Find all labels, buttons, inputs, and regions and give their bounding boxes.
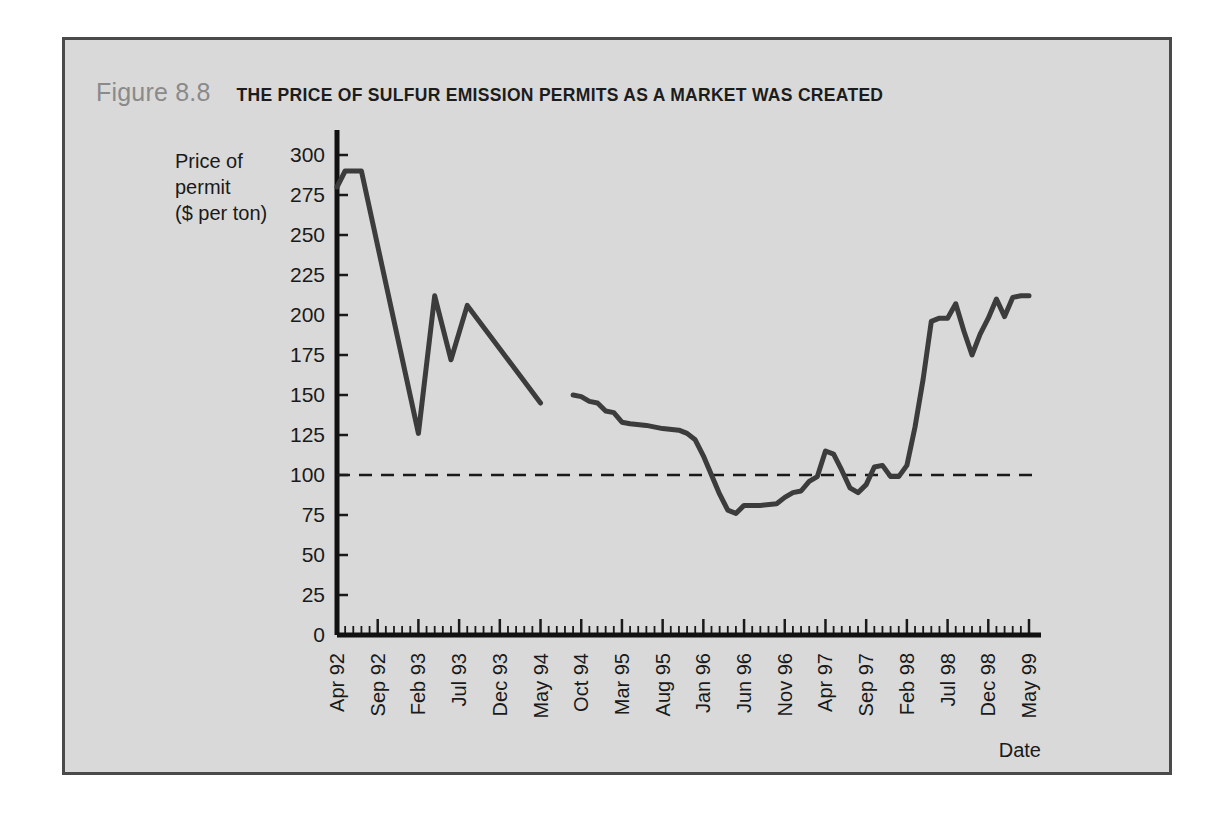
x-tick-label: Mar 95 (611, 653, 633, 715)
x-tick-label: Dec 98 (977, 653, 999, 716)
y-tick-label: 275 (290, 183, 325, 206)
y-tick-label: 225 (290, 263, 325, 286)
x-tick-label: Sep 92 (367, 653, 389, 716)
x-tick-label: May 94 (530, 653, 552, 719)
x-tick-label: May 99 (1018, 653, 1040, 719)
y-tick-label: 250 (290, 223, 325, 246)
y-tick-label: 175 (290, 343, 325, 366)
price-series-lines (337, 171, 1029, 513)
x-axis-title: Date (999, 739, 1041, 761)
figure-panel: Figure 8.8 THE PRICE OF SULFUR EMISSION … (62, 37, 1172, 775)
x-tick-label: Sep 97 (855, 653, 877, 716)
y-tick-label: 200 (290, 303, 325, 326)
x-tick-label: Jul 93 (448, 653, 470, 706)
y-axis-label-line: permit (175, 176, 231, 198)
x-tick-label: Jun 96 (733, 653, 755, 713)
x-tick-label: Apr 97 (814, 653, 836, 712)
x-tick-label: Dec 93 (489, 653, 511, 716)
y-tick-label: 25 (302, 583, 325, 606)
y-tick-label: 125 (290, 423, 325, 446)
x-tick-label: Jul 98 (937, 653, 959, 706)
chart-plot-area: Price ofpermit($ per ton) 02550751001251… (65, 40, 1175, 778)
x-tick-label: Oct 94 (570, 653, 592, 712)
x-tick-label: Aug 95 (652, 653, 674, 716)
y-tick-label: 0 (313, 623, 325, 646)
x-tick-label: Nov 96 (774, 653, 796, 716)
price-line (337, 171, 541, 433)
x-tick-label: Feb 93 (407, 653, 429, 715)
y-axis-label-line: Price of (175, 150, 243, 172)
axis-lines (337, 130, 1041, 635)
x-tick-label: Feb 98 (896, 653, 918, 715)
x-tick-label: Jan 96 (692, 653, 714, 713)
y-axis-label: Price ofpermit($ per ton) (175, 150, 267, 224)
y-tick-label: 300 (290, 143, 325, 166)
x-tick-label: Apr 92 (326, 653, 348, 712)
y-tick-label: 100 (290, 463, 325, 486)
y-axis-label-line: ($ per ton) (175, 202, 267, 224)
y-tick-label: 50 (302, 543, 325, 566)
x-axis-title-label: Date (999, 739, 1041, 761)
price-line (573, 296, 1029, 514)
y-tick-label: 75 (302, 503, 325, 526)
y-tick-label: 150 (290, 383, 325, 406)
